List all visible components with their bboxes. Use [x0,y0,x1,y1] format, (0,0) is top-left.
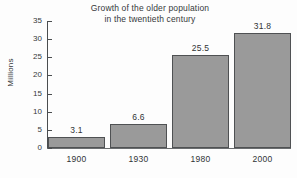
y-tick-label: 35 [20,16,42,25]
y-tick-mark [48,57,52,58]
y-tick-label: 20 [20,70,42,79]
y-tick-label: 10 [20,107,42,116]
y-tick-label: 15 [20,89,42,98]
y-tick-label: 30 [20,34,42,43]
x-tick-label: 1900 [48,154,105,164]
x-tick-label: 1930 [110,154,167,164]
bar-value-label: 25.5 [172,43,229,53]
bar-value-label: 3.1 [48,125,105,135]
y-tick-mark [48,112,52,113]
y-tick-label: 25 [20,52,42,61]
bar [110,124,167,148]
bar-value-label: 6.6 [110,112,167,122]
bar [172,55,229,148]
x-tick-label: 2000 [234,154,291,164]
bar [48,137,105,148]
x-axis-line [47,148,291,149]
y-tick-mark [48,94,52,95]
bar-chart: Growth of the older population in the tw… [0,0,297,178]
bar [234,33,291,148]
y-tick-mark [48,148,52,149]
y-tick-mark [48,75,52,76]
y-tick-label: 0 [20,143,42,152]
x-tick-label: 1980 [172,154,229,164]
y-axis-label: Millions [6,43,15,103]
y-tick-label: 5 [20,125,42,134]
y-tick-mark [48,39,52,40]
chart-title: Growth of the older population in the tw… [60,3,240,24]
bar-value-label: 31.8 [234,21,291,31]
y-tick-mark [48,21,52,22]
